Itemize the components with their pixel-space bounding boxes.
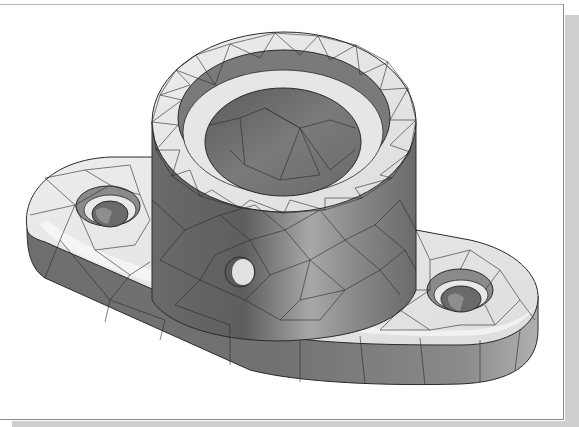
radial-side-hole: [225, 257, 255, 287]
cylindrical-boss: [152, 32, 416, 341]
mesh-render: [0, 0, 579, 427]
right-mounting-hole: [427, 269, 493, 312]
